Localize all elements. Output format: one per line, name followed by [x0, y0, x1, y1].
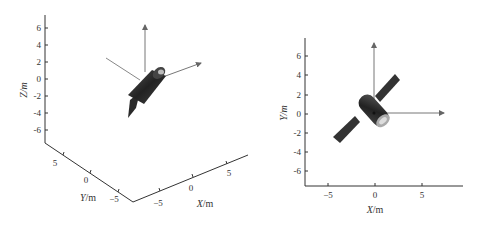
left-x-label: X/m [196, 198, 214, 209]
left-y-label: Y/m [80, 192, 96, 203]
x-tick-5: 5 [227, 168, 232, 178]
body-axis-right-arrow [160, 63, 201, 78]
left-z-ticks: 6 4 2 0 -2 -4 -6 [34, 23, 49, 135]
ry-tick-0: 0 [297, 109, 302, 119]
z-tick-m4: -4 [34, 108, 42, 118]
ry-tick-m4: -4 [294, 147, 302, 157]
ry-tick-m2: -2 [294, 128, 302, 138]
left-satellite-model [106, 25, 201, 118]
left-x-axis [133, 155, 248, 202]
x-tick-0: 0 [189, 183, 194, 193]
z-tick-m2: -2 [34, 91, 42, 101]
y-tick-5: 5 [53, 158, 58, 168]
rx-tick-0: 0 [373, 190, 378, 200]
x-tick-m5: −5 [153, 198, 163, 208]
ry-tick-4: 4 [297, 70, 302, 80]
left-z-label: Z/m [18, 82, 29, 98]
y-tick-0: 0 [84, 175, 89, 185]
right-y-label: Y/m [278, 105, 289, 121]
y-tick-m5: −5 [109, 194, 119, 204]
rx-tick-5: 5 [420, 190, 425, 200]
z-tick-4: 4 [37, 40, 42, 50]
ry-tick-m6: -6 [294, 166, 302, 176]
z-tick-m6: -6 [34, 125, 42, 135]
left-x-ticks: −5 0 5 [153, 161, 232, 208]
z-tick-2: 2 [37, 57, 42, 67]
left-3d-plot: 6 4 2 0 -2 -4 -6 Z/m 5 0 −5 Y/m −5 0 5 [18, 15, 248, 209]
rx-tick-m5: −5 [323, 190, 333, 200]
ry-tick-2: 2 [297, 90, 302, 100]
right-x-label: X/m [366, 204, 384, 215]
z-tick-6: 6 [37, 23, 42, 33]
right-satellite-model [333, 43, 444, 143]
right-2d-plot: 6 4 2 0 -2 -4 -6 Y/m −5 0 5 X/m [278, 38, 463, 215]
right-y-ticks: 6 4 2 0 -2 -4 -6 [294, 51, 309, 176]
z-tick-0: 0 [37, 74, 42, 84]
figure: 6 4 2 0 -2 -4 -6 Z/m 5 0 −5 Y/m −5 0 5 [0, 0, 478, 229]
ry-tick-6: 6 [297, 51, 302, 61]
body-axis-left-arrow [106, 58, 140, 80]
